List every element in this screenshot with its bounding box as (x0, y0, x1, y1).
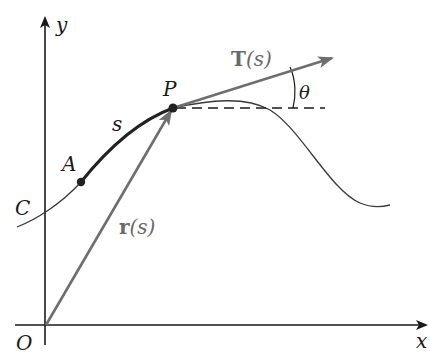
point-a-dot (77, 178, 85, 186)
point-a-label: A (60, 152, 76, 176)
origin-label: O (16, 331, 32, 355)
arc-length-segment (81, 108, 173, 182)
arc-length-diagram: y x O C A P s θ r(s) T(s) (0, 0, 430, 361)
position-vector-label: r(s) (119, 215, 155, 239)
tangent-vector-label: T(s) (231, 47, 272, 71)
arc-length-label: s (112, 112, 122, 136)
angle-theta-arc (290, 67, 295, 108)
y-axis-label: y (55, 13, 68, 37)
point-p-label: P (162, 77, 177, 101)
point-p-dot (169, 104, 178, 113)
angle-theta-label: θ (299, 82, 310, 103)
x-axis-label: x (416, 329, 427, 353)
curve-label: C (15, 196, 30, 220)
